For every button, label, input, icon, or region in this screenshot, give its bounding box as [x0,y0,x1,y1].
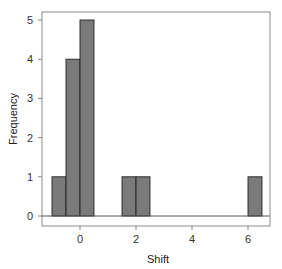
x-axis-label: Shift [147,253,169,265]
x-tick-label: 0 [77,233,83,245]
y-axis: 012345 [27,14,42,222]
histogram-bar [136,177,150,216]
x-tick-label: 4 [189,233,195,245]
y-axis-label: Frequency [7,93,19,145]
histogram-bar [248,177,262,216]
histogram-bar [80,20,94,216]
x-tick-label: 2 [133,233,139,245]
y-tick-label: 5 [27,14,33,26]
histogram-bar [122,177,136,216]
y-tick-label: 1 [27,171,33,183]
x-tick-label: 6 [245,233,251,245]
histogram-chart: 012345 0246 Shift Frequency [0,0,282,269]
histogram-bar [52,177,66,216]
y-tick-label: 0 [27,210,33,222]
y-tick-label: 4 [27,53,33,65]
y-tick-label: 2 [27,132,33,144]
x-axis: 0246 [77,226,251,245]
y-tick-label: 3 [27,92,33,104]
histogram-bar [66,59,80,216]
